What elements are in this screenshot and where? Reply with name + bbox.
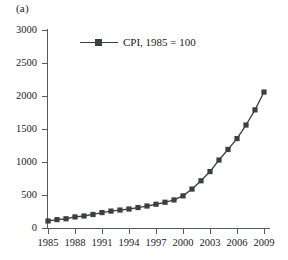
series-marker <box>135 205 140 210</box>
legend: CPI, 1985 = 100 <box>80 36 196 48</box>
series-line-cpi <box>48 92 264 221</box>
y-tick-mark <box>42 195 47 196</box>
series-marker <box>180 193 185 198</box>
y-tick-label: 2500 <box>0 58 37 69</box>
x-tick-label: 2009 <box>244 237 284 248</box>
series-marker <box>162 200 167 205</box>
y-tick-mark <box>42 162 47 163</box>
series-marker <box>198 178 203 183</box>
y-tick-label: 0 <box>0 223 37 234</box>
y-tick-label: 500 <box>0 190 37 201</box>
series-marker <box>81 213 86 218</box>
x-tick-mark <box>129 229 130 234</box>
series-marker <box>90 212 95 217</box>
series-marker <box>153 202 158 207</box>
x-tick-mark <box>102 229 103 234</box>
y-tick-label: 1500 <box>0 124 37 135</box>
y-tick-mark <box>42 96 47 97</box>
series-marker <box>72 214 77 219</box>
y-tick-mark <box>42 30 47 31</box>
x-tick-mark <box>183 229 184 234</box>
series-marker <box>144 203 149 208</box>
y-tick-mark <box>42 228 47 229</box>
chart-figure: (a) 050010001500200025003000 19851988199… <box>0 0 288 260</box>
x-tick-mark <box>237 229 238 234</box>
y-tick-label: 2000 <box>0 91 37 102</box>
x-tick-mark <box>75 229 76 234</box>
series-marker <box>216 157 221 162</box>
series-marker <box>225 147 230 152</box>
series-marker <box>234 136 239 141</box>
x-tick-mark <box>48 229 49 234</box>
series-marker <box>108 209 113 214</box>
y-axis-spine <box>47 29 48 229</box>
series-marker <box>54 217 59 222</box>
y-tick-mark <box>42 63 47 64</box>
panel-label: (a) <box>16 2 29 14</box>
series-marker <box>207 169 212 174</box>
series-markers-cpi <box>45 89 266 223</box>
series-marker <box>243 122 248 127</box>
x-tick-mark <box>264 229 265 234</box>
legend-label-cpi: CPI, 1985 = 100 <box>123 36 196 48</box>
series-marker <box>261 89 266 94</box>
x-tick-mark <box>156 229 157 234</box>
series-marker <box>252 107 257 112</box>
series-marker <box>63 216 68 221</box>
y-tick-label: 3000 <box>0 25 37 36</box>
series-marker <box>171 197 176 202</box>
y-tick-mark <box>42 129 47 130</box>
x-tick-mark <box>210 229 211 234</box>
legend-swatch-icon <box>80 37 118 48</box>
series-marker <box>99 210 104 215</box>
series-marker <box>126 206 131 211</box>
y-tick-label: 1000 <box>0 157 37 168</box>
series-marker <box>117 207 122 212</box>
series-marker <box>189 186 194 191</box>
